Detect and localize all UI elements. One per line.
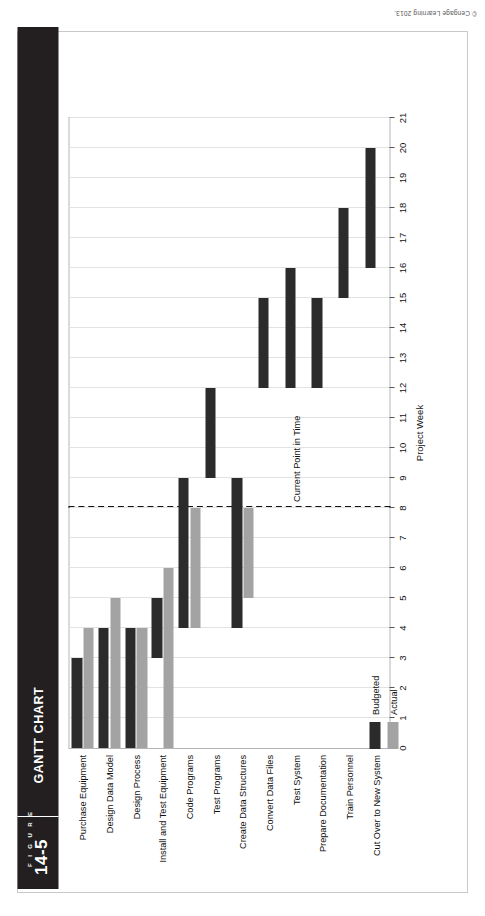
gantt-bar-budgeted [98, 628, 109, 748]
x-axis-tick [389, 267, 394, 268]
grid-line [69, 417, 389, 418]
gantt-bar-budgeted [178, 478, 189, 628]
task-label: Install and Test Equipment [157, 755, 167, 863]
legend-label-budgeted: Budgeted [370, 676, 380, 715]
x-axis-tick [389, 657, 394, 658]
figure-title-bar: F I G U R E 14-5 GANTT CHART [17, 27, 58, 889]
x-axis-tick [389, 477, 394, 478]
gantt-bar-budgeted [231, 478, 242, 628]
legend-item-budgeted: Budgeted [369, 676, 380, 749]
x-axis-tick [389, 417, 394, 418]
x-axis-tick [389, 327, 394, 328]
task-label: Purchase Equipment [77, 755, 87, 840]
x-axis-tick [389, 597, 394, 598]
task-label: Design Data Model [104, 755, 114, 833]
x-axis-tick-label: 11 [396, 413, 407, 423]
x-axis-tick [389, 507, 394, 508]
gantt-bar-budgeted [205, 388, 216, 478]
legend-swatch-actual-icon [387, 722, 398, 749]
gantt-bar-actual [163, 568, 174, 748]
x-axis-tick-label: 20 [396, 143, 407, 154]
grid-line [69, 447, 389, 448]
plot-host: 0123456789101112131415161718192021Projec… [58, 27, 468, 889]
x-axis-tick-label: 10 [396, 443, 407, 454]
grid-line [69, 567, 389, 568]
x-axis-tick-label: 6 [396, 565, 407, 570]
x-axis-tick [389, 387, 394, 388]
gantt-bar-actual [190, 508, 201, 628]
x-axis-tick [389, 207, 394, 208]
figure-canvas: F I G U R E 14-5 GANTT CHART 01234567891… [17, 27, 468, 889]
gantt-bar-budgeted [71, 658, 82, 748]
grid-line [69, 537, 389, 538]
legend-swatch-budgeted-icon [369, 722, 380, 749]
legend-label-actual: Actual [388, 689, 398, 715]
x-axis-tick [389, 177, 394, 178]
x-axis-tick-label: 18 [396, 203, 407, 214]
x-axis-tick-label: 16 [396, 263, 407, 274]
gantt-bar-actual [243, 508, 254, 598]
chart-legend: Budgeted Actual [369, 676, 398, 749]
grid-line [69, 117, 389, 118]
task-label: Convert Data Files [264, 755, 274, 831]
x-axis-tick [389, 117, 394, 118]
task-label: Code Programs [184, 755, 194, 819]
grid-line [69, 387, 389, 388]
rotated-figure-wrapper: F I G U R E 14-5 GANTT CHART 01234567891… [0, 0, 485, 916]
x-axis-tick [389, 297, 394, 298]
gantt-bar-actual [136, 628, 147, 748]
figure-title: GANTT CHART [31, 687, 45, 784]
gantt-bar-budgeted [365, 148, 376, 268]
figure-number-block: F I G U R E 14-5 [26, 810, 49, 879]
x-axis-tick [389, 537, 394, 538]
grid-line [69, 327, 389, 328]
grid-line [69, 357, 389, 358]
gantt-bar-actual [83, 628, 94, 748]
x-axis-title: Project Week [413, 405, 424, 461]
x-axis-tick-label: 15 [396, 293, 407, 304]
current-point-in-time-label: Current Point in Time [291, 416, 301, 502]
x-axis-tick-label: 13 [396, 353, 407, 364]
x-axis-tick-label: 7 [396, 535, 407, 540]
x-axis-tick [389, 147, 394, 148]
x-axis-tick-label: 8 [396, 505, 407, 510]
x-axis-tick [389, 567, 394, 568]
x-axis-tick-label: 3 [396, 655, 407, 660]
gantt-bar-budgeted [125, 628, 136, 748]
gantt-bar-budgeted [151, 598, 162, 658]
x-axis-tick-label: 5 [396, 595, 407, 600]
x-axis-tick-label: 4 [396, 625, 407, 630]
grid-line [69, 477, 389, 478]
x-axis-tick-label: 12 [396, 383, 407, 394]
grid-line [69, 177, 389, 178]
x-axis-tick [389, 627, 394, 628]
gantt-bar-actual [110, 598, 121, 748]
x-axis-tick [389, 357, 394, 358]
gantt-bar-budgeted [285, 268, 296, 388]
title-divider [17, 816, 58, 817]
legend-item-actual: Actual [387, 676, 398, 749]
x-axis-tick [389, 237, 394, 238]
x-axis-tick-label: 19 [396, 173, 407, 184]
task-label: Prepare Documentation [317, 755, 327, 852]
x-axis-tick [389, 447, 394, 448]
gantt-plot-area: 0123456789101112131415161718192021Projec… [68, 117, 390, 749]
x-axis-tick-label: 9 [396, 475, 407, 480]
task-label: Test Programs [211, 755, 221, 814]
figure-number: 14-5 [32, 839, 49, 875]
grid-line [69, 147, 389, 148]
x-axis-tick-label: 14 [396, 323, 407, 334]
task-label: Design Process [131, 755, 141, 819]
x-axis-tick-label: 21 [396, 113, 407, 124]
grid-line [69, 507, 389, 508]
gantt-bar-budgeted [311, 298, 322, 388]
task-label: Create Data Structures [237, 755, 247, 849]
task-label: Train Personnel [344, 755, 354, 820]
task-label: Cut Over to New System [371, 755, 381, 856]
x-axis-tick-label: 17 [396, 233, 407, 244]
task-label: Test System [291, 755, 301, 805]
gantt-bar-budgeted [338, 208, 349, 298]
gantt-bar-budgeted [258, 298, 269, 388]
